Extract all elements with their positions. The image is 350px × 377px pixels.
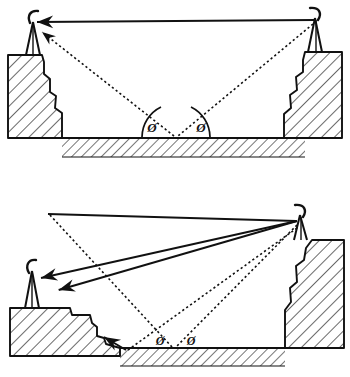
right-antenna [308, 8, 322, 52]
grazing-angle-left-label: Ø [146, 120, 157, 135]
left-antenna [26, 11, 40, 55]
top-panel: Ø Ø [0, 0, 350, 190]
valley-floor [120, 348, 285, 366]
diagram-page: Ø Ø [0, 0, 350, 377]
grazing-angle-left-label: Ø [155, 334, 166, 348]
slope-reflected-path [104, 228, 297, 350]
right-antenna [294, 205, 307, 240]
right-cliff [284, 52, 342, 138]
escaping-ray [48, 211, 297, 222]
bottom-panel: Ø Ø [0, 190, 350, 377]
valley-floor [62, 138, 305, 157]
grazing-angle-left: Ø [142, 107, 161, 137]
grazing-angle-right-label: Ø [186, 334, 197, 348]
left-cliff [8, 55, 62, 138]
direct-path [41, 221, 297, 278]
two-ray-reflected-path [42, 24, 313, 136]
left-terrace [10, 308, 120, 356]
direct-path [37, 20, 314, 22]
grazing-angle-right-label: Ø [195, 120, 206, 135]
right-cliff [285, 240, 344, 348]
left-antenna [25, 260, 39, 308]
